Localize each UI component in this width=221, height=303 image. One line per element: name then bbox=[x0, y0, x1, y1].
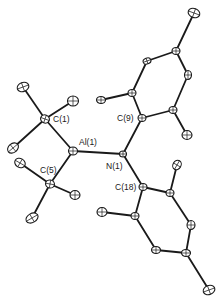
atom-r1o1 bbox=[128, 90, 136, 97]
bond-R1o1-R1m1 bbox=[132, 61, 147, 93]
bond-R2m2-R2o2 bbox=[170, 193, 191, 225]
label-c18: C(18) bbox=[115, 183, 136, 192]
atom-r1m2 bbox=[185, 71, 192, 80]
atom-c9 bbox=[138, 115, 146, 122]
atom-c18 bbox=[139, 184, 147, 191]
atom-c5b bbox=[70, 191, 80, 200]
bond-R1p-R1Me3 bbox=[176, 13, 194, 51]
molecule-drawing bbox=[0, 0, 221, 303]
atom-r1me1 bbox=[97, 97, 106, 104]
bonds-layer bbox=[13, 13, 209, 290]
atoms-layer bbox=[6, 7, 217, 297]
atom-r2me2 bbox=[171, 159, 183, 172]
bond-R1m2-R1o2 bbox=[173, 75, 188, 110]
bond-Al1-N1 bbox=[73, 151, 123, 154]
atom-r1o2 bbox=[169, 107, 177, 114]
atom-r2o2 bbox=[166, 190, 174, 197]
atom-r2me3 bbox=[202, 284, 216, 297]
bond-R1o2-C9 bbox=[142, 110, 173, 118]
atom-r2p bbox=[182, 250, 191, 257]
atom-c1a bbox=[16, 81, 30, 94]
label-c1: C(1) bbox=[53, 115, 70, 124]
atom-r1m1 bbox=[142, 57, 152, 65]
molecular-structure-diagram: C(1) Al(1) C(5) N(1) C(9) C(18) bbox=[0, 0, 221, 303]
atom-r2o1 bbox=[131, 213, 139, 220]
atom-r2m2 bbox=[187, 221, 195, 230]
label-al1: Al(1) bbox=[79, 138, 97, 147]
atom-c5 bbox=[45, 179, 55, 188]
atom-n1 bbox=[120, 151, 127, 157]
label-n1: N(1) bbox=[106, 162, 123, 171]
atom-r1me3 bbox=[187, 7, 201, 20]
bond-R2p-R2Me3 bbox=[186, 253, 209, 290]
atom-r2m1 bbox=[152, 247, 161, 254]
label-c5: C(5) bbox=[40, 166, 57, 175]
bond-R2o1-R2m1 bbox=[135, 216, 156, 250]
label-c9: C(9) bbox=[117, 114, 134, 123]
atom-c1b bbox=[68, 96, 79, 106]
atom-c5c bbox=[24, 211, 40, 225]
bond-C1-C1a bbox=[23, 87, 45, 119]
bond-R1m1-R1p bbox=[147, 51, 176, 61]
atom-c5a bbox=[13, 156, 27, 169]
bond-N1-C9 bbox=[123, 118, 142, 154]
atom-al1 bbox=[69, 147, 78, 155]
atom-r1me2 bbox=[182, 131, 192, 140]
atom-r2me1 bbox=[97, 208, 107, 217]
atom-r1p bbox=[172, 48, 180, 55]
